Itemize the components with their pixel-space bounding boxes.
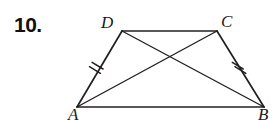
congruence-ticks-side-DA [90, 62, 104, 73]
vertex-label-D: D [100, 13, 114, 32]
diagonals-group [77, 31, 264, 107]
geometry-figure-panel: 10. D C A B [0, 0, 276, 120]
trapezoid-outline [77, 31, 264, 107]
trapezoid-diagram: D C A B [0, 0, 276, 120]
diagonal-AC-line [77, 31, 217, 107]
vertex-label-B: B [258, 105, 269, 120]
side-BC-line [217, 31, 264, 107]
vertex-label-A: A [67, 105, 79, 120]
vertex-label-C: C [221, 12, 233, 31]
side-DA-line [77, 31, 122, 107]
